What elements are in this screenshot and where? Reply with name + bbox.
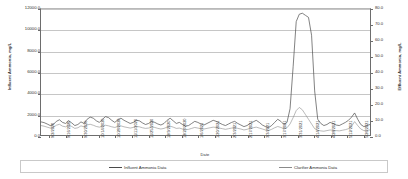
y-tick-label-right: 10.0 (375, 117, 408, 123)
y-tickmark-right (370, 137, 373, 138)
x-tick-label: 9/2/2020 (50, 123, 55, 138)
y-tickmark-right (370, 9, 373, 10)
x-tick-label: 3/3/2021 (265, 123, 270, 138)
y-tick-label-right: 40.0 (375, 69, 408, 75)
y-tickmark-right (370, 41, 373, 42)
y-tick-label-left: 10000.0 (0, 26, 40, 32)
y-tick-label-left: 8000.0 (0, 48, 40, 54)
x-tick-label: 5/12/2021 (348, 121, 353, 138)
x-tick-label: 12/9/2020 (166, 121, 171, 138)
x-tick-label: 4/14/2021 (315, 121, 320, 138)
y-tickmark-right (370, 57, 373, 58)
y-tickmark-right (370, 89, 373, 90)
y-tickmark-right (370, 105, 373, 106)
chart-legend: Influent Ammonia Data Clarifier Ammonia … (20, 160, 388, 173)
y-tick-label-right: 60.0 (375, 37, 408, 43)
x-tick-label: 1/6/2021 (199, 123, 204, 138)
legend-label-clarifier: Clarifier Ammonia Data (294, 165, 337, 170)
x-tick-label: 11/25/2020 (149, 119, 154, 138)
x-tick-label: 1/20/2021 (215, 121, 220, 138)
y-tick-label-right: 50.0 (375, 53, 408, 59)
y-tickmark-left (38, 137, 41, 138)
y-tick-label-right: 70.0 (375, 21, 408, 27)
y-tick-label-left: 0.0 (0, 133, 40, 139)
series-canvas (41, 9, 370, 135)
y-tick-label-right: 30.0 (375, 85, 408, 91)
y-tick-label-left: 6000.0 (0, 69, 40, 75)
y-tick-label-left: 12000.0 (0, 5, 40, 11)
y-tickmark-right (370, 121, 373, 122)
legend-swatch-clarifier (279, 167, 292, 168)
x-tick-label: 2/17/2021 (248, 121, 253, 138)
y-tick-label-right: 0.0 (375, 133, 408, 139)
x-tick-label: 5/26/2021 (364, 121, 369, 138)
x-tick-label: 4/28/2021 (331, 121, 336, 138)
x-tick-label: 9/16/2020 (66, 121, 71, 138)
legend-item-influent[interactable]: Influent Ammonia Data (109, 164, 166, 171)
x-tick-label: 3/31/2021 (298, 121, 303, 138)
x-tick-label: 12/23/2020 (182, 118, 187, 138)
x-axis-title: Date (150, 152, 260, 157)
y-tick-label-left: 4000.0 (0, 90, 40, 96)
x-tick-label: 10/28/2020 (116, 118, 121, 138)
legend-swatch-influent (109, 167, 122, 168)
series-line-influent (41, 13, 370, 127)
x-tick-label: 2/3/2021 (232, 123, 237, 138)
x-tick-label: 3/17/2021 (282, 121, 287, 138)
y-tickmark-right (370, 25, 373, 26)
y-tickmark-right (370, 73, 373, 74)
y-tick-label-left: 2000.0 (0, 112, 40, 118)
series-line-clarifier (41, 107, 370, 131)
legend-item-clarifier[interactable]: Clarifier Ammonia Data (279, 164, 337, 171)
x-tick-label: 10/14/2020 (100, 118, 105, 138)
y-tick-label-right: 80.0 (375, 5, 408, 11)
y-tick-label-right: 20.0 (375, 101, 408, 107)
legend-label-influent: Influent Ammonia Data (124, 165, 166, 170)
x-tick-label: 9/30/2020 (83, 121, 88, 138)
x-tick-label: 11/11/2020 (133, 119, 138, 138)
chart-root: Influent Ammonia, mg/L Effluent Ammonia,… (0, 0, 408, 179)
plot-area (40, 8, 371, 136)
